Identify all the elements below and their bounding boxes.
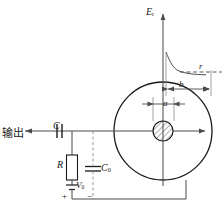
output-arrow-head (25, 128, 32, 133)
label-polarity-negative: − (87, 192, 92, 201)
label-outer-radius: r (199, 62, 203, 71)
load-resistor-body (67, 155, 78, 180)
dimension-b-arrowhead-left (168, 87, 174, 92)
label-coupling-capacitor: C (53, 121, 60, 131)
dimension-b-arrowhead-right (204, 87, 210, 92)
figure-canvas: Er r b a C R V0 C0 输出 + − (0, 0, 224, 215)
label-field-axis: Er (146, 7, 154, 18)
label-bias-supply: V0 (76, 181, 84, 191)
label-output: 输出 (2, 128, 24, 139)
label-polarity-positive: + (62, 192, 67, 201)
label-load-resistor: R (57, 160, 63, 170)
label-cathode-distance: b (179, 80, 184, 89)
schematic-drawing (0, 0, 224, 215)
label-anode-diameter: a (163, 99, 168, 108)
label-filter-capacitor: C0 (101, 163, 111, 174)
